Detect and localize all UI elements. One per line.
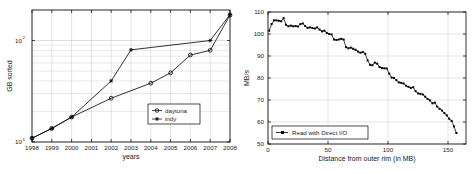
marker-read-direct-io xyxy=(436,106,438,108)
marker-read-direct-io xyxy=(446,114,448,116)
marker-read-direct-io xyxy=(415,90,417,92)
marker-read-direct-io xyxy=(429,99,431,101)
marker-read-direct-io xyxy=(302,22,304,24)
marker-read-direct-io xyxy=(417,92,419,94)
marker-read-direct-io xyxy=(333,39,335,41)
marker-read-direct-io xyxy=(448,118,450,120)
x-tick-label: 2006 xyxy=(184,144,198,151)
x-tick-label: 100 xyxy=(383,146,394,153)
marker-read-direct-io xyxy=(355,49,357,51)
marker-read-direct-io xyxy=(345,46,347,48)
chart-panel-sort-benchmark: 1998199920002001200220032004200520062007… xyxy=(0,0,238,174)
marker-read-direct-io xyxy=(280,20,282,22)
figure-container: 1998199920002001200220032004200520062007… xyxy=(0,0,475,174)
marker-read-direct-io xyxy=(424,96,426,98)
marker-read-direct-io xyxy=(287,25,289,27)
x-tick-label: 2002 xyxy=(104,144,118,151)
x-tick-label: 1998 xyxy=(25,144,39,151)
marker-read-direct-io xyxy=(335,39,337,41)
marker-read-direct-io xyxy=(431,102,433,104)
x-tick-label: 1999 xyxy=(45,144,59,151)
y-tick-label: 80 xyxy=(257,74,264,81)
marker-read-direct-io xyxy=(311,27,313,29)
y-tick-label: 90 xyxy=(257,52,264,59)
marker-read-direct-io xyxy=(381,67,383,69)
marker-read-direct-io xyxy=(273,19,275,21)
marker-read-direct-io xyxy=(357,51,359,53)
marker-read-direct-io xyxy=(422,94,424,96)
marker-read-direct-io xyxy=(314,28,316,30)
marker-read-direct-io xyxy=(299,23,301,25)
y-tick-label-exponent: 2 xyxy=(23,35,26,40)
sort-benchmark-plot: 1998199920002001200220032004200520062007… xyxy=(6,10,237,161)
marker-read-direct-io xyxy=(367,59,369,61)
x-tick-label: 150 xyxy=(443,146,454,153)
marker-read-direct-io xyxy=(292,25,294,27)
y-tick-label-exponent: 1 xyxy=(23,137,26,142)
marker-read-direct-io xyxy=(309,26,311,28)
disk-read-throughput-chart: 0501001505060708090100110Distance from o… xyxy=(238,0,475,174)
y-tick-label: 50 xyxy=(257,140,264,147)
marker-read-direct-io xyxy=(290,25,292,27)
marker-read-direct-io xyxy=(398,81,400,83)
y-axis-label: MB/s xyxy=(243,70,250,86)
disk-read-plot: 0501001505060708090100110Distance from o… xyxy=(243,8,466,163)
marker-read-direct-io xyxy=(427,98,429,100)
marker-read-direct-io xyxy=(295,25,297,27)
marker-read-direct-io xyxy=(278,20,280,22)
marker-read-direct-io xyxy=(268,30,270,32)
marker-read-direct-io xyxy=(439,108,441,110)
y-tick-label: 10 xyxy=(15,37,22,44)
marker-read-direct-io xyxy=(319,29,321,31)
y-tick-label: 10 xyxy=(15,138,22,145)
y-tick-label: 100 xyxy=(254,30,265,37)
sort-benchmark-chart: 1998199920002001200220032004200520062007… xyxy=(0,0,238,174)
marker-read-direct-io xyxy=(407,86,409,88)
marker-read-direct-io xyxy=(393,77,395,79)
marker-read-direct-io xyxy=(283,17,285,19)
legend: daytonaindy xyxy=(148,104,200,124)
y-tick-label: 70 xyxy=(257,96,264,103)
marker-read-direct-io xyxy=(383,67,385,69)
x-tick-label: 2004 xyxy=(144,144,158,151)
marker-read-direct-io xyxy=(323,30,325,32)
marker-read-direct-io xyxy=(331,33,333,35)
marker-read-direct-io xyxy=(350,47,352,49)
chart-panel-disk-read: 0501001505060708090100110Distance from o… xyxy=(238,0,475,174)
x-tick-label: 50 xyxy=(325,146,332,153)
marker-read-direct-io xyxy=(304,25,306,27)
marker-read-direct-io xyxy=(328,33,330,35)
marker-read-direct-io xyxy=(352,48,354,50)
marker-read-direct-io xyxy=(362,51,364,53)
x-tick-label: 2005 xyxy=(164,144,178,151)
legend-label-daytona: daytona xyxy=(165,107,188,114)
marker-read-direct-io xyxy=(371,64,373,66)
marker-read-direct-io xyxy=(453,125,455,127)
marker-read-direct-io xyxy=(441,110,443,112)
legend: Read with Direct I/O xyxy=(272,126,368,139)
marker-read-direct-io xyxy=(395,79,397,81)
marker-read-direct-io xyxy=(347,47,349,49)
legend-label-read-direct-io: Read with Direct I/O xyxy=(292,129,348,136)
x-tick-label: 2003 xyxy=(124,144,138,151)
marker-read-direct-io xyxy=(297,26,299,28)
marker-read-direct-io xyxy=(271,23,273,25)
marker-read-direct-io xyxy=(410,87,412,89)
legend-marker-square-icon xyxy=(281,131,284,134)
marker-read-direct-io xyxy=(379,66,381,68)
marker-read-direct-io xyxy=(307,27,309,29)
marker-read-direct-io xyxy=(343,39,345,41)
x-tick-label: 2000 xyxy=(65,144,79,151)
series-line-read-direct-io xyxy=(269,18,456,133)
marker-read-direct-io xyxy=(455,132,457,134)
marker-read-direct-io xyxy=(374,62,376,64)
marker-read-direct-io xyxy=(412,86,414,88)
marker-read-direct-io xyxy=(340,38,342,40)
marker-read-direct-io xyxy=(359,52,361,54)
x-axis-label: years xyxy=(122,153,140,161)
marker-read-direct-io xyxy=(400,82,402,84)
marker-read-direct-io xyxy=(434,102,436,104)
marker-read-direct-io xyxy=(364,53,366,55)
y-tick-label: 60 xyxy=(257,118,264,125)
legend-label-indy: indy xyxy=(165,115,177,122)
